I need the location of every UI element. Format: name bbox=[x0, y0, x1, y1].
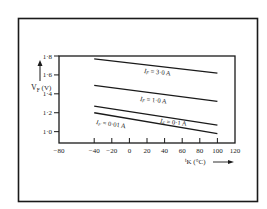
arrowhead-right-icon bbox=[228, 160, 234, 164]
series-label: IF = 0·01 A bbox=[95, 118, 127, 130]
x-tick-label: −20 bbox=[106, 147, 117, 155]
series-label: IF = 1·0 A bbox=[139, 95, 167, 106]
x-tick-label: 20 bbox=[144, 147, 152, 155]
arrowhead-up-icon bbox=[38, 60, 43, 66]
y-tick-label: 1·8 bbox=[43, 53, 53, 61]
x-tick-label: −80 bbox=[54, 147, 65, 155]
outer-frame bbox=[19, 19, 258, 202]
x-axis-label: tK (°C) bbox=[185, 157, 206, 166]
y-tick-label: 1·2 bbox=[43, 109, 53, 117]
y-tick-label: 1·0 bbox=[43, 128, 53, 136]
y-axis-label: VF (V) bbox=[31, 83, 52, 93]
series-label: IF = 3·0 A bbox=[143, 67, 171, 78]
chart: −80−40−200204060801001201·01·21·41·61·8V… bbox=[0, 0, 267, 209]
plot-area: −80−40−200204060801001201·01·21·41·61·8V… bbox=[31, 53, 241, 167]
x-tick-label: 0 bbox=[128, 147, 132, 155]
x-tick-label: 60 bbox=[179, 147, 187, 155]
x-tick-label: 80 bbox=[196, 147, 204, 155]
y-tick-label: 1·6 bbox=[43, 71, 53, 79]
x-tick-label: 120 bbox=[230, 147, 241, 155]
x-tick-label: 100 bbox=[212, 147, 223, 155]
x-tick-label: −40 bbox=[89, 147, 100, 155]
x-tick-label: 40 bbox=[161, 147, 169, 155]
